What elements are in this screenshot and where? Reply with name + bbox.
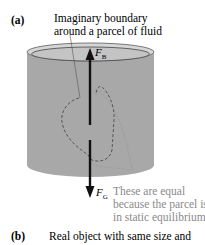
boundary-note-2: around a parcel of fluid	[54, 25, 162, 38]
boundary-note-1: Imaginary boundary	[54, 12, 148, 25]
equal-note-2: because the parcel is	[113, 198, 205, 211]
panel-b-label: (b)	[11, 230, 25, 243]
panel-b-caption: Real object with same size and	[49, 230, 191, 243]
equal-note-1: These are equal	[113, 185, 185, 198]
panel-a-label: (a)	[11, 14, 24, 27]
fg-label: FG	[96, 186, 108, 204]
fb-label: FB	[95, 46, 106, 64]
equal-note-3: in static equilibrium.	[113, 211, 205, 224]
